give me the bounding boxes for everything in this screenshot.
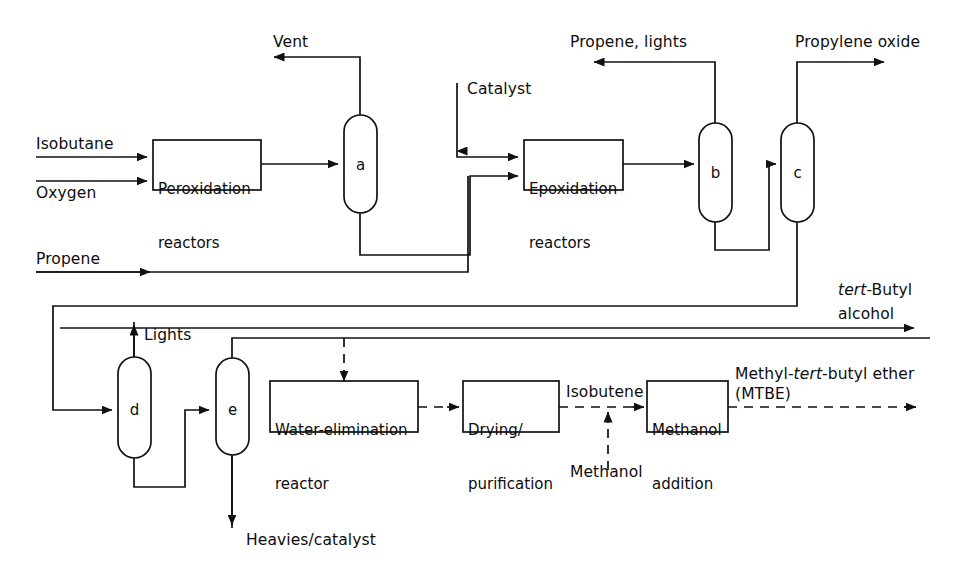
unit-label-drying-purification: Drying/ purification (468, 385, 553, 529)
unit-label-water-elimination: Water-elimination reactor (275, 385, 408, 529)
label-tba-tert: tert (838, 281, 866, 299)
label-mtbe-tert: tert (794, 365, 822, 383)
stream-vent (274, 57, 360, 115)
label-heavies-catalyst: Heavies/catalyst (246, 531, 376, 549)
label-mtbe: Methyl-tert-butyl ether (735, 365, 914, 383)
unit-label-epoxidation: Epoxidation reactors (529, 144, 617, 288)
unit-label-methanol-addition: Methanol addition (652, 385, 722, 529)
unit-label-drying-line1: Drying/ (468, 421, 553, 439)
label-tba-rest: -Butyl (866, 281, 912, 299)
unit-label-water-elimination-line1: Water-elimination (275, 421, 408, 439)
column-label-a: a (344, 156, 377, 174)
unit-label-peroxidation: Peroxidation reactors (158, 144, 251, 288)
column-label-e: e (216, 401, 249, 419)
unit-label-water-elimination-line2: reactor (275, 475, 408, 493)
label-propene: Propene (36, 250, 100, 268)
unit-label-epoxidation-line1: Epoxidation (529, 180, 617, 198)
unit-label-drying-line2: purification (468, 475, 553, 493)
stream-propylene-oxide (797, 62, 884, 123)
label-propene-lights: Propene, lights (570, 33, 687, 51)
label-propylene-oxide: Propylene oxide (795, 33, 920, 51)
unit-label-epoxidation-line2: reactors (529, 234, 617, 252)
label-catalyst: Catalyst (467, 80, 531, 98)
label-oxygen: Oxygen (36, 184, 96, 202)
label-isobutane: Isobutane (36, 135, 114, 153)
label-mtbe-methyl: Methyl- (735, 365, 794, 383)
unit-label-peroxidation-line1: Peroxidation (158, 180, 251, 198)
column-label-d: d (118, 401, 151, 419)
label-tert-butyl-alcohol: tert-Butyl (838, 281, 912, 299)
label-methanol: Methanol (570, 463, 643, 481)
stream-e-top-header (232, 338, 930, 358)
unit-label-methanol-addition-line2: addition (652, 475, 722, 493)
label-vent: Vent (273, 33, 308, 51)
label-mtbe-abbrev: (MTBE) (735, 385, 791, 403)
unit-label-methanol-addition-line1: Methanol (652, 421, 722, 439)
stream-a-bottom-to-epox (360, 176, 518, 255)
process-flow-diagram: Isobutane Oxygen Propene Catalyst Methan… (0, 0, 967, 586)
label-mtbe-butyl-ether: -butyl ether (822, 365, 914, 383)
unit-label-peroxidation-line2: reactors (158, 234, 251, 252)
label-isobutene: Isobutene (566, 383, 644, 401)
label-lights: Lights (144, 326, 191, 344)
column-label-b: b (699, 164, 732, 182)
stream-propene-lights (594, 62, 715, 123)
column-label-c: c (781, 164, 814, 182)
label-tba-alcohol: alcohol (838, 305, 894, 323)
